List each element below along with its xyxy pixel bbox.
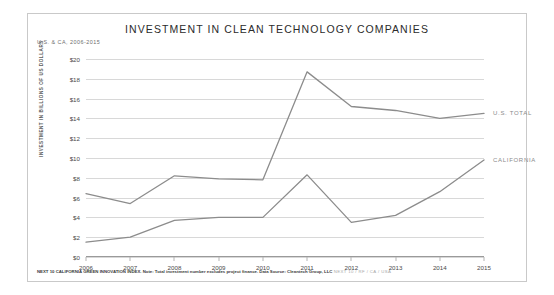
x-axis-tick-mark [218, 257, 219, 261]
x-axis-tick-mark [351, 257, 352, 261]
y-axis-tick-label: $10 [70, 155, 80, 162]
series-label: U.S. TOTAL [493, 110, 532, 116]
x-axis-tick-mark [262, 257, 263, 261]
series-line [86, 160, 484, 242]
series-line [86, 72, 484, 204]
y-axis-tick-label: $18 [70, 75, 80, 82]
gridline: $0 [86, 257, 484, 258]
x-axis-tick-mark [130, 257, 131, 261]
y-axis-label: INVESTMENT IN BILLIONS OF US DOLLARS [39, 24, 44, 174]
x-axis-tick-mark [86, 257, 87, 261]
plot-area: $0$2$4$6$8$10$12$14$16$18$20 20062007200… [86, 59, 484, 257]
x-axis-tick-mark [307, 257, 308, 261]
y-axis-tick-label: $12 [70, 135, 80, 142]
series-label: CALIFORNIA [493, 157, 536, 163]
y-axis-tick-label: $2 [73, 234, 80, 241]
y-axis-tick-label: $14 [70, 115, 80, 122]
y-axis-tick-label: $20 [70, 56, 80, 63]
chart-title: INVESTMENT IN CLEAN TECHNOLOGY COMPANIES [28, 23, 526, 35]
x-axis-tick-mark [395, 257, 396, 261]
y-axis-tick-label: $0 [73, 254, 80, 261]
y-axis-tick-label: $4 [73, 214, 80, 221]
y-axis-tick-label: $8 [73, 174, 80, 181]
chart-figure: INVESTMENT IN CLEAN TECHNOLOGY COMPANIES… [27, 13, 527, 282]
footnote-main: NEXT 10 CALIFORNIA GREEN INNOVATION INDE… [37, 269, 332, 274]
y-axis-tick-label: $16 [70, 95, 80, 102]
series-lines [86, 59, 484, 257]
chart-footnote: NEXT 10 CALIFORNIA GREEN INNOVATION INDE… [37, 269, 517, 274]
footnote-tag: NEXT 10 / RF / CA / USA [334, 269, 392, 274]
y-axis-tick-label: $6 [73, 194, 80, 201]
x-axis-tick-mark [484, 257, 485, 261]
x-axis-tick-mark [439, 257, 440, 261]
chart-subtitle: U.S. & CA, 2006-2015 [37, 39, 100, 45]
x-axis-tick-mark [174, 257, 175, 261]
